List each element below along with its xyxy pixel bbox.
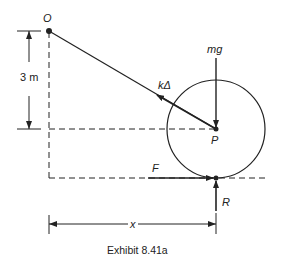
- normal-force-label: R: [222, 196, 230, 208]
- weight-force-label: mg: [207, 43, 223, 55]
- spring-force-arrow: [157, 95, 216, 129]
- height-dimension-label: 3 m: [20, 71, 38, 83]
- figure-caption: Exhibit 8.41a: [107, 244, 168, 256]
- x-dimension-label: x: [129, 218, 136, 230]
- friction-force-label: F: [152, 162, 160, 174]
- spring-force-label: kΔ: [158, 79, 171, 91]
- free-body-diagram: 3 m O P mg kΔ F R x Exhibit 8.41a: [0, 0, 282, 263]
- point-o-label: O: [43, 12, 52, 24]
- reference-lines: [49, 32, 268, 178]
- point-o: [46, 28, 52, 34]
- contact-point: [214, 176, 219, 181]
- point-p-label: P: [211, 134, 219, 146]
